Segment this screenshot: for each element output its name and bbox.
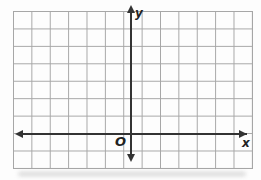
x-axis-line bbox=[17, 133, 247, 135]
scan-shadow bbox=[18, 172, 246, 176]
y-axis-line bbox=[130, 9, 132, 156]
origin-label: O bbox=[115, 135, 126, 148]
y-axis-bottom-arrow-icon bbox=[127, 154, 135, 162]
y-axis-label: y bbox=[135, 7, 143, 19]
y-axis-top-arrow-icon bbox=[127, 5, 135, 13]
x-axis-label: x bbox=[242, 137, 250, 149]
x-axis-left-arrow-icon bbox=[15, 130, 23, 138]
grid bbox=[13, 11, 253, 169]
coordinate-plane-figure: y x O bbox=[0, 0, 261, 180]
